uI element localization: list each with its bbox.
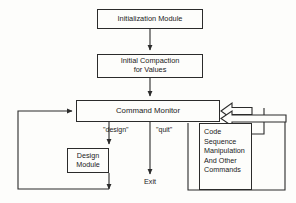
node-initial-compaction-label: Initial Compaction for Values (121, 57, 180, 74)
edge-label-exit-terminal: Exit (144, 178, 156, 186)
node-code-sequence-commands-label: Code Sequence Manipulation And Other Com… (204, 127, 245, 175)
edge-label-design-branch: "design" (103, 126, 129, 134)
node-code-sequence-commands: Code Sequence Manipulation And Other Com… (199, 123, 252, 190)
node-initial-compaction: Initial Compaction for Values (97, 54, 203, 78)
node-design-module-label: Design Module (76, 152, 100, 169)
node-command-monitor: Command Monitor (76, 100, 220, 122)
node-initialization-module: Initialization Module (97, 9, 203, 29)
node-design-module: Design Module (67, 148, 109, 173)
flowchart-canvas: Initialization Module Initial Compaction… (0, 0, 296, 203)
node-initialization-module-label: Initialization Module (118, 15, 183, 24)
edge-label-quit-branch: "quit" (156, 126, 172, 134)
node-command-monitor-label: Command Monitor (116, 106, 180, 115)
